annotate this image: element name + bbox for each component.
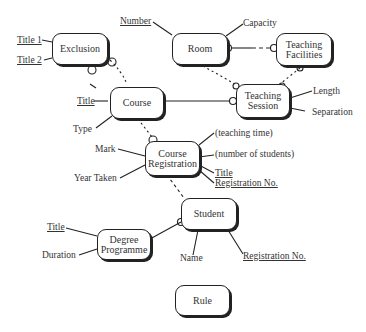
attr-degree-duration: Duration	[42, 250, 76, 260]
attr-session-separation: Separation	[312, 107, 353, 117]
entity-exclusion[interactable]: Exclusion	[52, 33, 108, 65]
attr-session-length: Length	[313, 86, 340, 96]
attr-exclusion-title1: Title 1	[17, 35, 42, 45]
entity-teaching-facilities[interactable]: Teaching Facilities	[276, 33, 332, 66]
entity-rule[interactable]: Rule	[175, 285, 230, 316]
attr-degree-title: Title	[47, 222, 65, 232]
entity-course-registration[interactable]: Course Registration	[145, 141, 200, 176]
entity-teaching-session[interactable]: Teaching Session	[236, 84, 290, 118]
attr-room-number: Number	[120, 16, 151, 26]
attr-reg-registration-no: Registration No.	[215, 178, 278, 188]
attr-reg-teaching-time: (teaching time)	[215, 128, 273, 138]
entity-course[interactable]: Course	[110, 87, 164, 119]
attr-student-registration-no: Registration No.	[243, 251, 306, 261]
attr-reg-year-taken: Year Taken	[74, 173, 117, 183]
entity-degree-programme[interactable]: Degree Programme	[97, 229, 151, 260]
attr-reg-number-of-students: (number of students)	[215, 149, 294, 159]
attr-student-name: Name	[180, 253, 203, 263]
attr-exclusion-title2: Title 2	[17, 55, 42, 65]
attr-reg-title: Title	[215, 168, 233, 178]
attr-reg-mark: Mark	[95, 144, 116, 154]
entity-room[interactable]: Room	[172, 33, 228, 65]
attr-room-capacity: Capacity	[243, 18, 277, 28]
entity-student[interactable]: Student	[181, 198, 237, 230]
attr-course-title: Title	[77, 96, 95, 106]
attr-course-type: Type	[73, 124, 92, 134]
